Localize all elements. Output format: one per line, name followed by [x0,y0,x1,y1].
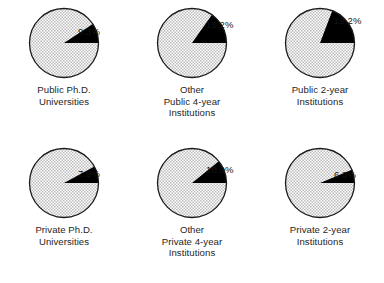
pie-caption: OtherPublic 4-yearInstitutions [128,84,256,119]
pie-chart-other-public-4-year [155,6,229,80]
pie-graphic [283,146,357,220]
pie-caption-line: Public 4-year [128,96,256,108]
pie-percentage-label: 15.2% [206,19,233,30]
pie-caption-line: Institutions [128,247,256,259]
pie-chart-cell: 6.3%Private 2-yearInstitutions [256,140,384,283]
pie-caption-line: Institutions [128,107,256,119]
pie-caption: Public Ph.D.Universities [0,84,128,107]
pie-caption: Private Ph.D.Universities [0,224,128,247]
pie-chart-other-private-4-year [155,146,229,220]
pie-caption: Public 2-yearInstitutions [256,84,384,107]
pie-caption-line: Public 2-year [256,84,384,96]
pie-caption-line: Universities [0,96,128,108]
pie-caption-line: Private 2-year [256,224,384,236]
pie-caption: OtherPrivate 4-yearInstitutions [128,224,256,259]
pie-graphic [27,146,101,220]
pie-chart-private-phd-universities [27,146,101,220]
pie-caption: Private 2-yearInstitutions [256,224,384,247]
pie-caption-line: Other [128,84,256,96]
pie-percentage-label: 10.9% [206,164,233,175]
pie-caption-line: Other [128,224,256,236]
pie-chart-cell: 10.9%OtherPrivate 4-yearInstitutions [128,140,256,283]
pie-chart-public-phd-universities [27,6,101,80]
pie-percentage-label: 7.9% [78,168,100,179]
pie-chart-private-2-year [283,146,357,220]
pie-caption-line: Private 4-year [128,236,256,248]
pie-graphic [155,6,229,80]
pie-chart-cell: 15.2%OtherPublic 4-yearInstitutions [128,0,256,140]
pie-chart-grid: 9.3%Public Ph.D.Universities15.2%OtherPu… [0,0,384,283]
pie-graphic [155,146,229,220]
pie-caption-line: Institutions [256,96,384,108]
pie-percentage-label: 19.2% [334,15,361,26]
pie-caption-line: Universities [0,236,128,248]
pie-caption-line: Public Ph.D. [0,84,128,96]
pie-graphic [27,6,101,80]
pie-percentage-label: 6.3% [334,169,356,180]
pie-percentage-label: 9.3% [78,26,100,37]
pie-caption-line: Institutions [256,236,384,248]
pie-chart-cell: 9.3%Public Ph.D.Universities [0,0,128,140]
pie-caption-line: Private Ph.D. [0,224,128,236]
pie-chart-cell: 19.2%Public 2-yearInstitutions [256,0,384,140]
pie-chart-cell: 7.9%Private Ph.D.Universities [0,140,128,283]
